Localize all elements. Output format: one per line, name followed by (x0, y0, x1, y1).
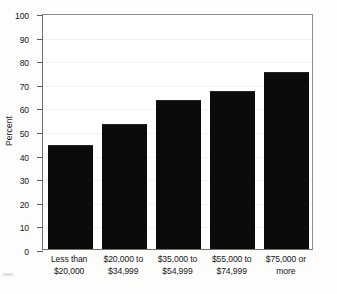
plot-area: 0102030405060708090100 (42, 14, 313, 250)
bars-layer (43, 15, 312, 249)
x-axis-label-line: $35,000 to (150, 254, 204, 266)
x-axis-category-label: $75,000 ormore (259, 254, 313, 277)
y-axis-tick-label: 20 (20, 200, 29, 210)
x-axis-label-line: $74,999 (205, 266, 259, 278)
bar (210, 91, 255, 249)
y-axis-tick-label: 90 (20, 35, 29, 45)
x-axis-label-line: $75,000 or (259, 254, 313, 266)
bar (48, 145, 93, 249)
bar (102, 124, 147, 249)
x-axis-label-line: $54,999 (150, 266, 204, 278)
x-axis-category-label: $55,000 to$74,999 (205, 254, 259, 277)
x-axis-category-label: $20,000 to$34,999 (96, 254, 150, 277)
x-axis-category-label: $35,000 to$54,999 (150, 254, 204, 277)
y-axis-title: Percent (4, 96, 14, 166)
y-axis-tick-label: 80 (20, 58, 29, 68)
y-axis-tick-label: 10 (20, 223, 29, 233)
bar (156, 100, 201, 249)
bar-chart-figure: Percent 0102030405060708090100 Less than… (0, 0, 337, 294)
x-axis-category-labels: Less than$20,000$20,000 to$34,999$35,000… (42, 254, 313, 294)
y-axis-tick-label: 50 (20, 129, 29, 139)
bar (264, 72, 309, 249)
y-axis-tick: 0 (37, 251, 43, 252)
x-axis-label-line: $20,000 (42, 266, 96, 278)
y-axis-tick-label: 40 (20, 153, 29, 163)
x-axis-label-line: $34,999 (96, 266, 150, 278)
x-axis-label-line: Less than (42, 254, 96, 266)
y-axis-tick-label: 30 (20, 176, 29, 186)
x-axis-category-label: Less than$20,000 (42, 254, 96, 277)
x-axis-label-line: $20,000 to (96, 254, 150, 266)
y-axis-tick-label: 0 (24, 247, 29, 257)
y-axis-tick-label: 70 (20, 82, 29, 92)
y-axis-tick-label: 60 (20, 105, 29, 115)
scan-artifact (3, 273, 13, 276)
x-axis-label-line: $55,000 to (205, 254, 259, 266)
y-axis-tick-label: 100 (15, 11, 29, 21)
x-axis-label-line: more (259, 266, 313, 278)
